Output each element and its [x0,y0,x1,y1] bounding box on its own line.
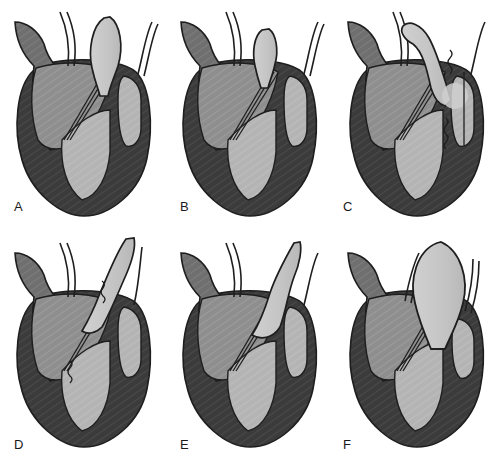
heart-body-d [15,238,150,447]
heart-body-a [15,12,158,216]
panel-f [333,231,500,462]
right-ventricle [118,76,141,146]
panel-b [166,0,333,231]
heart-body-b [181,12,324,216]
panel-label-e: E [180,438,189,451]
panel-label-a: A [14,200,23,213]
right-ventricle [284,76,307,146]
panel-label-d: D [14,438,24,451]
heart-body-e [181,242,318,447]
right-ventricle [118,307,141,377]
panel-c [333,0,500,231]
panel-e [166,231,333,462]
panel-label-c: C [343,200,353,213]
panel-label-b: B [180,200,189,213]
panel-a [0,0,167,231]
panel-label-f: F [343,438,351,451]
figure-canvas: A B [0,0,503,462]
heart-body-c [348,12,485,216]
heart-body-f [348,242,483,447]
right-ventricle [284,307,307,377]
panel-d [0,231,167,462]
